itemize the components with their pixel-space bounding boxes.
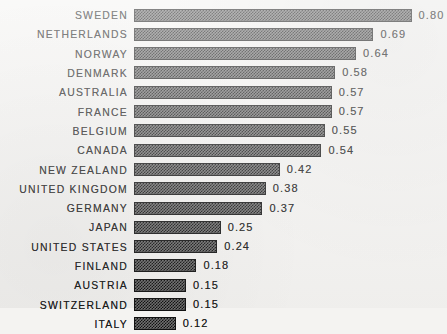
bar-row: SWITZERLAND0.15 — [0, 295, 447, 314]
bar-track: 0.15 — [134, 279, 447, 292]
bar-row: SWEDEN0.80 — [0, 6, 447, 25]
category-label: JAPAN — [0, 221, 128, 234]
category-label: UNITED STATES — [0, 241, 128, 254]
bar-track: 0.64 — [134, 47, 447, 60]
bar-row: NEW ZEALAND0.42 — [0, 160, 447, 179]
bar-row: AUSTRIA0.15 — [0, 276, 447, 295]
bar-value-label: 0.57 — [339, 86, 365, 99]
category-label: DENMARK — [0, 67, 128, 80]
bar-track: 0.55 — [134, 124, 447, 137]
category-label: AUSTRIA — [0, 279, 128, 292]
bar-value-label: 0.57 — [339, 105, 365, 118]
bar — [134, 259, 196, 272]
bar-value-label: 0.64 — [363, 47, 389, 60]
bar-value-label: 0.58 — [342, 66, 368, 79]
bar-track: 0.42 — [134, 163, 447, 176]
bar-row: CANADA0.54 — [0, 141, 447, 160]
category-label: AUSTRALIA — [0, 86, 128, 99]
bar-track: 0.57 — [134, 86, 447, 99]
bar — [134, 202, 262, 215]
bar-value-label: 0.12 — [183, 317, 209, 330]
bar — [134, 182, 266, 195]
bar-value-label: 0.55 — [332, 124, 358, 137]
bar-track: 0.54 — [134, 144, 447, 157]
bar-track: 0.80 — [134, 9, 447, 22]
bar — [134, 28, 373, 41]
bar-value-label: 0.38 — [273, 182, 299, 195]
bar-row: NORWAY0.64 — [0, 45, 447, 64]
category-label: ITALY — [0, 318, 128, 331]
category-label: FRANCE — [0, 106, 128, 119]
bar-row: UNITED KINGDOM0.38 — [0, 180, 447, 199]
bar-value-label: 0.69 — [380, 28, 406, 41]
category-label: UNITED KINGDOM — [0, 183, 128, 196]
bar-value-label: 0.37 — [269, 202, 295, 215]
bar — [134, 163, 280, 176]
bar-row: NETHERLANDS0.69 — [0, 25, 447, 44]
bar-value-label: 0.54 — [328, 144, 354, 157]
bar-value-label: 0.42 — [287, 163, 313, 176]
bar-rows: SWEDEN0.80NETHERLANDS0.69NORWAY0.64DENMA… — [0, 6, 447, 334]
bar-value-label: 0.24 — [224, 240, 250, 253]
bar-row: FRANCE0.57 — [0, 102, 447, 121]
bar-track: 0.38 — [134, 182, 447, 195]
bar-track: 0.69 — [134, 28, 447, 41]
bar-row: AUSTRALIA0.57 — [0, 83, 447, 102]
bar — [134, 221, 221, 234]
category-label: CANADA — [0, 144, 128, 157]
bar — [134, 47, 356, 60]
bar-value-label: 0.18 — [203, 259, 229, 272]
bar-row: UNITED STATES0.24 — [0, 238, 447, 257]
bar-row: JAPAN0.25 — [0, 218, 447, 237]
bar-track: 0.12 — [134, 317, 447, 330]
category-label: NORWAY — [0, 48, 128, 61]
bar-track: 0.37 — [134, 202, 447, 215]
category-label: SWEDEN — [0, 9, 128, 22]
bar-row: ITALY0.12 — [0, 315, 447, 334]
category-label: NETHERLANDS — [0, 28, 128, 41]
bar — [134, 105, 332, 118]
bar — [134, 144, 321, 157]
category-label: GERMANY — [0, 202, 128, 215]
bar-row: BELGIUM0.55 — [0, 122, 447, 141]
bar-track: 0.24 — [134, 240, 447, 253]
bar-track: 0.58 — [134, 66, 447, 79]
category-label: NEW ZEALAND — [0, 164, 128, 177]
bar — [134, 66, 335, 79]
bar-value-label: 0.25 — [228, 221, 254, 234]
bar — [134, 279, 186, 292]
bar-row: GERMANY0.37 — [0, 199, 447, 218]
bar-value-label: 0.80 — [419, 9, 445, 22]
bar-track: 0.25 — [134, 221, 447, 234]
bar — [134, 240, 217, 253]
bar — [134, 9, 412, 22]
bar-row: FINLAND0.18 — [0, 257, 447, 276]
bar — [134, 124, 325, 137]
bar-value-label: 0.15 — [193, 298, 219, 311]
bar — [134, 86, 332, 99]
bar-track: 0.57 — [134, 105, 447, 118]
category-label: BELGIUM — [0, 125, 128, 138]
bar-value-label: 0.15 — [193, 279, 219, 292]
bar — [134, 317, 176, 330]
bar-track: 0.15 — [134, 298, 447, 311]
bar-track: 0.18 — [134, 259, 447, 272]
bar — [134, 298, 186, 311]
category-label: SWITZERLAND — [0, 299, 128, 312]
bar-row: DENMARK0.58 — [0, 64, 447, 83]
category-label: FINLAND — [0, 260, 128, 273]
